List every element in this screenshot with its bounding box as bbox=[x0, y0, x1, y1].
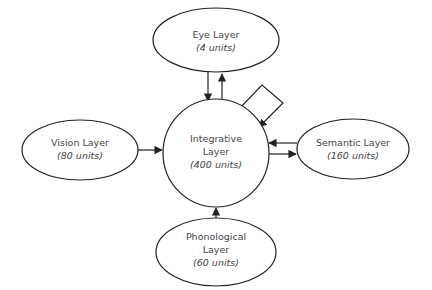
node-label-line1: Integrative bbox=[190, 133, 242, 144]
network-diagram: Eye Layer (4 units) Vision Layer (80 uni… bbox=[0, 0, 432, 290]
node-units: (4 units) bbox=[196, 42, 236, 53]
node-label: Semantic Layer bbox=[316, 137, 390, 148]
node-semantic-layer: Semantic Layer (160 units) bbox=[297, 119, 409, 179]
node-units: (400 units) bbox=[190, 159, 242, 170]
node-shape bbox=[153, 8, 279, 72]
node-vision-layer: Vision Layer (80 units) bbox=[22, 120, 138, 180]
node-units: (60 units) bbox=[193, 257, 239, 268]
node-label: Vision Layer bbox=[51, 137, 109, 148]
node-label: Eye Layer bbox=[193, 29, 240, 40]
node-label-line2: Layer bbox=[203, 244, 230, 255]
node-shape bbox=[297, 119, 409, 179]
node-units: (160 units) bbox=[327, 150, 379, 161]
node-integrative-layer: Integrative Layer (400 units) bbox=[163, 99, 269, 207]
node-eye-layer: Eye Layer (4 units) bbox=[153, 8, 279, 72]
node-units: (80 units) bbox=[57, 150, 103, 161]
node-phonological-layer: Phonological Layer (60 units) bbox=[156, 218, 276, 286]
node-label-line1: Phonological bbox=[186, 231, 246, 242]
node-label-line2: Layer bbox=[203, 146, 230, 157]
